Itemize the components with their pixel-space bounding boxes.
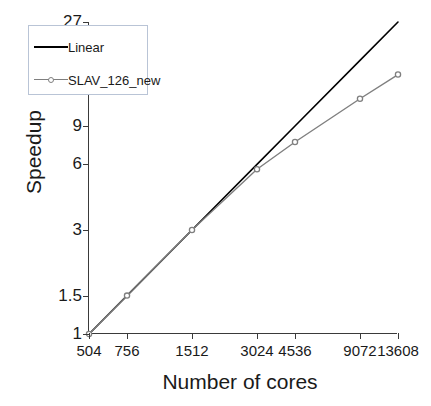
y-axis-tick [83, 296, 89, 297]
legend-item-linear: Linear [29, 38, 147, 56]
x-axis-tick [127, 333, 128, 339]
series-line-slav-126-new [89, 75, 398, 334]
y-axis-title: Speedup [22, 72, 46, 232]
y-axis-tick-label: 3 [73, 220, 82, 240]
y-axis-tick [83, 22, 89, 23]
x-axis-tick [89, 333, 90, 339]
x-axis-tick [295, 333, 296, 339]
x-axis-tick-label: 4536 [278, 342, 311, 359]
y-axis-tick [83, 164, 89, 165]
data-point-marker [189, 227, 194, 232]
x-axis-tick [398, 333, 399, 339]
x-axis-tick-label: 756 [114, 342, 139, 359]
x-axis-tick-label: 1512 [175, 342, 208, 359]
x-axis-tick-label: 9072 [343, 342, 376, 359]
x-axis-title: Number of cores [60, 370, 420, 394]
chart-figure: Speedup Number of cores 11.5369182750475… [0, 0, 431, 406]
y-axis-tick-label: 1.5 [58, 286, 82, 306]
legend-label-slav: SLAV_126_new [68, 74, 160, 87]
x-axis-tick [257, 333, 258, 339]
legend-label-linear: Linear [68, 41, 104, 54]
x-axis-tick [192, 333, 193, 339]
y-axis-tick [83, 126, 89, 127]
legend-swatch-slav [34, 73, 68, 87]
x-axis-tick-label: 504 [76, 342, 101, 359]
x-axis-tick-label: 13608 [377, 342, 419, 359]
data-point-marker [124, 293, 129, 298]
y-axis-tick-label: 6 [73, 154, 82, 174]
legend-swatch-linear [34, 40, 68, 54]
y-axis-tick-label: 1 [73, 324, 82, 344]
y-axis-tick [83, 230, 89, 231]
x-axis-tick-label: 3024 [240, 342, 273, 359]
data-point-marker [395, 72, 400, 77]
data-point-marker [357, 96, 362, 101]
data-point-marker [254, 167, 259, 172]
y-axis-tick-label: 9 [73, 116, 82, 136]
legend-item-slav: SLAV_126_new [29, 71, 147, 89]
legend: Linear SLAV_126_new [28, 25, 148, 95]
x-axis-tick [360, 333, 361, 339]
data-point-marker [292, 139, 297, 144]
